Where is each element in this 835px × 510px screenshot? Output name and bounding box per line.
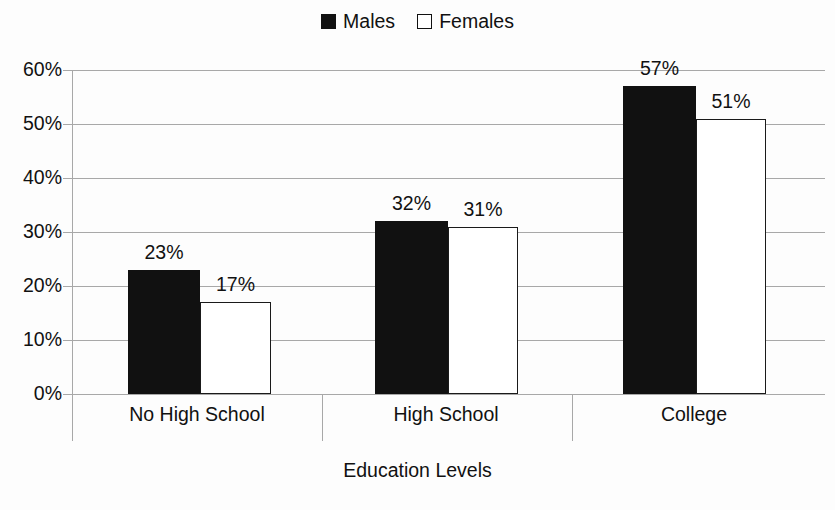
category-separator-1	[572, 395, 573, 441]
legend-entry-males: Males	[321, 12, 395, 32]
y-axis-label: 10%	[4, 330, 62, 350]
value-label-females-1: 31%	[463, 200, 502, 220]
bar-males-0[interactable]	[128, 270, 200, 394]
y-axis-labels: 60%50%40%30%20%10%0%	[0, 0, 62, 510]
gridline-0	[72, 394, 825, 395]
value-label-females-2: 51%	[711, 92, 750, 112]
bar-males-1[interactable]	[375, 221, 448, 394]
bar-females-1[interactable]	[448, 227, 518, 394]
category-label-2: College	[661, 405, 727, 425]
filled-square-icon	[321, 14, 336, 29]
x-axis-title: Education Levels	[0, 461, 835, 481]
category-label-1: High School	[393, 405, 498, 425]
legend-entry-females: Females	[417, 12, 514, 32]
value-label-males-2: 57%	[640, 59, 679, 79]
y-tick-20	[63, 286, 73, 287]
y-tick-30	[63, 232, 73, 233]
legend-label-males: Males	[343, 12, 395, 32]
chart-legend: Males Females	[0, 12, 835, 32]
category-separator-0	[322, 395, 323, 441]
y-tick-40	[63, 178, 73, 179]
plot-area	[72, 70, 825, 394]
bar-females-2[interactable]	[696, 119, 766, 394]
y-axis-label: 40%	[4, 168, 62, 188]
y-tick-10	[63, 340, 73, 341]
category-label-0: No High School	[129, 405, 265, 425]
value-label-males-0: 23%	[144, 243, 183, 263]
category-separator-left	[72, 395, 73, 441]
y-tick-60	[63, 70, 73, 71]
bar-chart: Males Females 60%50%40%30%20%10%0% No Hi…	[0, 0, 835, 510]
gridline-60	[72, 70, 825, 71]
bar-females-0[interactable]	[200, 302, 271, 394]
y-axis-label: 50%	[4, 114, 62, 134]
y-tick-50	[63, 124, 73, 125]
hollow-square-icon	[417, 14, 432, 29]
y-axis-label: 0%	[4, 384, 62, 404]
y-axis-label: 30%	[4, 222, 62, 242]
y-axis-label: 20%	[4, 276, 62, 296]
value-label-females-0: 17%	[216, 275, 255, 295]
value-label-males-1: 32%	[392, 194, 431, 214]
legend-label-females: Females	[439, 12, 514, 32]
y-axis-label: 60%	[4, 60, 62, 80]
bar-males-2[interactable]	[623, 86, 696, 394]
